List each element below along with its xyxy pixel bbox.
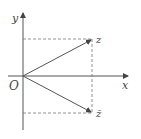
y-axis-label: y: [11, 12, 19, 25]
origin-label: O: [9, 79, 19, 93]
complex-plane-diagram: y x O z z̄: [0, 0, 141, 139]
vector-zbar: [23, 76, 91, 112]
x-axis-label: x: [122, 79, 129, 92]
point-z-label: z: [95, 34, 102, 45]
vector-z: [23, 40, 91, 76]
point-zbar-label: z̄: [95, 108, 102, 119]
